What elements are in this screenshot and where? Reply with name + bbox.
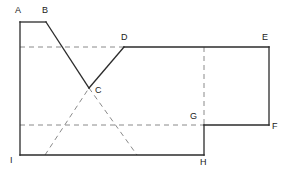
dashed-diagonal-right xyxy=(89,88,137,155)
vertex-label-a: A xyxy=(15,6,21,15)
vertex-label-i: I xyxy=(10,156,13,165)
construction-lines-group xyxy=(20,47,204,155)
vertex-label-b: B xyxy=(42,6,48,15)
vertex-label-e: E xyxy=(262,33,268,42)
geometry-canvas xyxy=(0,0,286,173)
edge-C-D xyxy=(89,47,124,88)
polygon-outline-group xyxy=(20,22,269,155)
vertex-label-g: G xyxy=(190,112,197,121)
geometry-figure: ABCDEFGHI xyxy=(0,0,286,173)
dashed-diagonal-left xyxy=(45,88,89,155)
vertex-label-d: D xyxy=(121,33,128,42)
vertex-label-f: F xyxy=(272,122,278,131)
vertex-label-c: C xyxy=(95,86,102,95)
vertex-label-h: H xyxy=(200,158,207,167)
edge-B-C xyxy=(46,22,89,88)
